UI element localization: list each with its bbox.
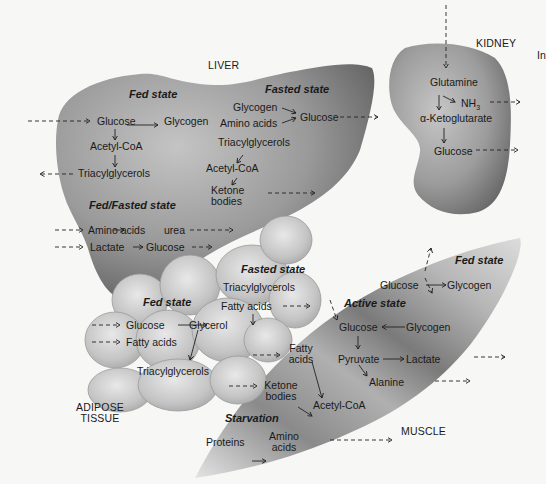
muscle-fed-glycogen: Glycogen: [447, 280, 491, 291]
intestine-label-cut: In: [537, 50, 546, 61]
kidney-glucose: Glucose: [434, 146, 473, 157]
adipose-fed-heading: Fed state: [143, 297, 191, 308]
muscle-acetylcoa: Acetyl-CoA: [313, 400, 366, 411]
adipose-fasted-tag: Triacylglycerols: [223, 282, 295, 293]
kidney-nh3: NH3: [461, 98, 480, 113]
liver-shape: [56, 64, 374, 300]
liver-fasted-glycogen: Glycogen: [233, 102, 277, 113]
kidney-label: KIDNEY: [476, 38, 516, 49]
muscle-active-pyruvate: Pyruvate: [338, 354, 379, 365]
liver-fasted-acetylcoa: Acetyl-CoA: [206, 163, 259, 174]
liver-fed-glycogen: Glycogen: [164, 116, 208, 127]
liver-fed-heading: Fed state: [129, 89, 177, 100]
muscle-active-glycogen: Glycogen: [406, 322, 450, 333]
muscle-starvation-amino-acids: Amino acids: [264, 431, 304, 453]
muscle-fed-heading: Fed state: [455, 255, 503, 266]
liver-fed-glucose: Glucose: [97, 116, 136, 127]
liver-fedfasted-amino-acids: Amino acids: [88, 225, 145, 236]
muscle-active-alanine: Alanine: [369, 377, 404, 388]
muscle-ketone-bodies: Ketone bodies: [261, 380, 301, 402]
liver-fed-acetylcoa: Acetyl-CoA: [90, 141, 143, 152]
muscle-label: MUSCLE: [401, 426, 446, 437]
liver-fasted-ketone: Ketone bodies: [211, 185, 244, 207]
adipose-fed-fatty-acids: Fatty acids: [126, 337, 177, 348]
metabolism-diagram: LIVER KIDNEY In ADIPOSE TISSUE MUSCLE Fe…: [0, 0, 546, 484]
muscle-active-heading: Active state: [344, 298, 406, 309]
muscle-fatty-acids: Fatty acids: [283, 343, 319, 365]
muscle-starvation-heading: Starvation: [225, 413, 279, 424]
adipose-label: ADIPOSE TISSUE: [70, 402, 130, 424]
muscle-active-glucose: Glucose: [339, 322, 378, 333]
adipose-fasted-heading: Fasted state: [241, 264, 305, 275]
liver-fedfasted-glucose: Glucose: [146, 242, 185, 253]
liver-fasted-glucose: Glucose: [300, 112, 339, 123]
muscle-fed-glucose: Glucose: [380, 280, 419, 291]
kidney-alpha-ketoglutarate: α-Ketoglutarate: [420, 113, 492, 124]
liver-fedfasted-urea: urea: [164, 225, 185, 236]
kidney-glutamine: Glutamine: [430, 77, 478, 88]
muscle-active-lactate: Lactate: [406, 354, 440, 365]
adipose-fasted-fatty-acids: Fatty acids: [221, 301, 272, 312]
liver-fasted-heading: Fasted state: [265, 84, 329, 95]
liver-fasted-tag: Triacylglycerols: [218, 137, 290, 148]
liver-fed-tag: Triacylglycerols: [78, 168, 150, 179]
adipose-fed-tag: Triacylglycerols: [137, 366, 209, 377]
muscle-starvation-proteins: Proteins: [206, 437, 245, 448]
liver-label: LIVER: [208, 60, 239, 71]
adipose-fed-glycerol: Glycerol: [189, 320, 228, 331]
adipose-fed-glucose: Glucose: [126, 320, 165, 331]
liver-fedfasted-lactate: Lactate: [90, 242, 124, 253]
liver-fedfasted-heading: Fed/Fasted state: [89, 200, 176, 211]
liver-fasted-amino-acids: Amino acids: [220, 118, 277, 129]
kidney-shape: [389, 43, 511, 214]
